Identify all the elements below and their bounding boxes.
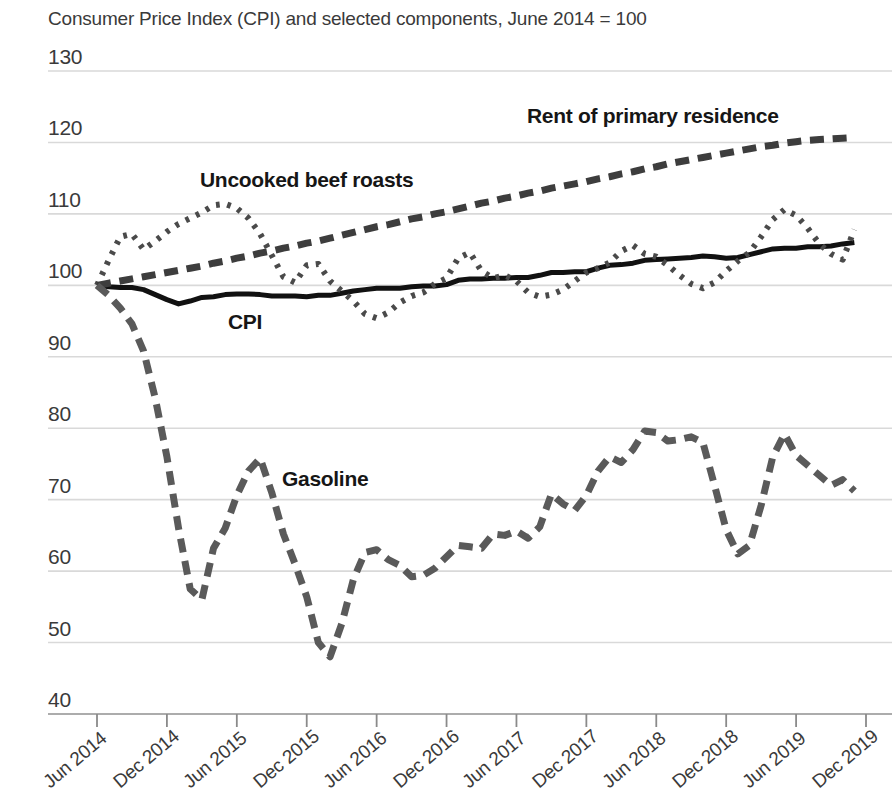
series-line-gasoline [97, 285, 854, 657]
series-label-rent-of-primary-residence: Rent of primary residence [527, 104, 779, 128]
series-label-cpi: CPI [228, 310, 262, 334]
gridlines [48, 71, 892, 714]
series-label-gasoline: Gasoline [282, 467, 368, 491]
x-axis-ticks [97, 714, 866, 727]
data-series-layer [97, 137, 854, 656]
series-label-uncooked-beef-roasts: Uncooked beef roasts [200, 168, 413, 192]
series-line-cpi [97, 242, 854, 303]
series-line-rent-of-primary-residence [97, 137, 854, 285]
